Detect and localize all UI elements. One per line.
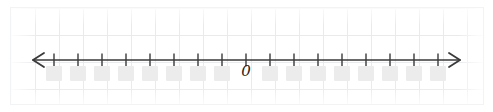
number-line-label-zero: 0 (236, 62, 256, 81)
blank-answer-box[interactable] (310, 66, 326, 81)
blank-answer-box[interactable] (70, 66, 86, 81)
blank-answer-box[interactable] (94, 66, 110, 81)
grid-paper-background (11, 8, 483, 104)
blank-answer-box[interactable] (166, 66, 182, 81)
blank-answer-box[interactable] (430, 66, 446, 81)
blank-answer-box[interactable] (118, 66, 134, 81)
blank-answer-box[interactable] (406, 66, 422, 81)
blank-answer-box[interactable] (262, 66, 278, 81)
blank-answer-box[interactable] (46, 66, 62, 81)
blank-answer-box[interactable] (382, 66, 398, 81)
number-line-figure: 0 (0, 0, 493, 112)
blank-answer-box[interactable] (286, 66, 302, 81)
blank-answer-box[interactable] (142, 66, 158, 81)
blank-answer-box[interactable] (334, 66, 350, 81)
blank-answer-box[interactable] (214, 66, 230, 81)
blank-answer-box[interactable] (358, 66, 374, 81)
blank-answer-box[interactable] (190, 66, 206, 81)
